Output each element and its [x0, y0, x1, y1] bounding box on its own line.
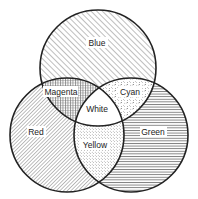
- label-white: White: [86, 104, 108, 114]
- label-cyan: Cyan: [120, 87, 140, 97]
- label-green: Green: [141, 127, 165, 137]
- label-blue: Blue: [88, 38, 105, 48]
- label-yellow: Yellow: [83, 140, 108, 150]
- label-magenta: Magenta: [44, 87, 77, 97]
- venn-diagram: Blue Magenta Cyan White Red Green Yellow: [0, 0, 198, 199]
- label-red: Red: [28, 127, 44, 137]
